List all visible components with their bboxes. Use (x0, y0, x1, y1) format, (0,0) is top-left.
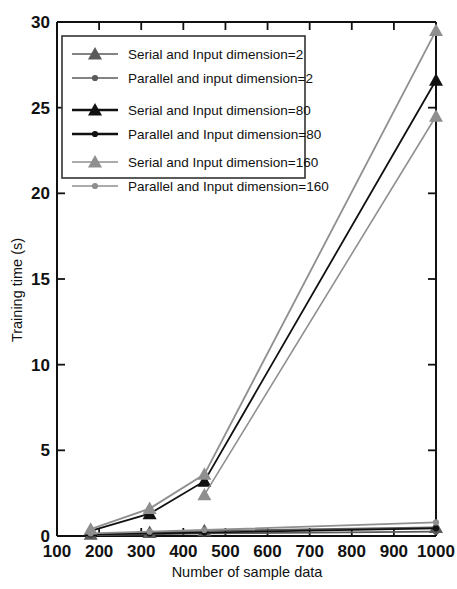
series-marker (201, 527, 207, 533)
series-marker (92, 183, 98, 189)
series-marker (92, 75, 98, 81)
chart-legend: Serial and Input dimension=2Parallel and… (62, 36, 329, 194)
series-marker (88, 530, 94, 536)
y-axis-title: Training time (s) (9, 238, 25, 342)
x-tick-label: 400 (169, 542, 197, 561)
y-tick-label: 15 (31, 270, 50, 289)
x-axis-title: Number of sample data (172, 564, 324, 580)
legend-label: Parallel and Input dimension=160 (128, 179, 329, 194)
series-marker (433, 519, 439, 525)
chart-svg: 1002003004005006007008009001000051015202… (0, 0, 457, 589)
legend-label: Parallel and Input dimension=80 (128, 127, 321, 142)
x-tick-label: 500 (211, 542, 239, 561)
y-tick-label: 5 (41, 441, 50, 460)
series-marker (433, 525, 439, 531)
x-tick-label: 600 (253, 542, 281, 561)
legend-label: Serial and Input dimension=80 (128, 103, 311, 118)
y-tick-label: 20 (31, 184, 50, 203)
chart-figure: 1002003004005006007008009001000051015202… (0, 0, 457, 589)
x-tick-label: 700 (295, 542, 323, 561)
y-tick-label: 25 (31, 99, 50, 118)
y-tick-label: 30 (31, 13, 50, 32)
legend-label: Parallel and input dimension=2 (128, 71, 313, 86)
legend-label: Serial and Input dimension=2 (128, 47, 303, 62)
x-tick-label: 300 (127, 542, 155, 561)
x-tick-label: 200 (85, 542, 113, 561)
x-tick-label: 900 (380, 542, 408, 561)
y-tick-label: 10 (31, 356, 50, 375)
series-marker (92, 131, 98, 137)
y-tick-label: 0 (41, 527, 50, 546)
series-marker (147, 529, 153, 535)
x-tick-label: 800 (338, 542, 366, 561)
x-tick-label: 1000 (417, 542, 455, 561)
legend-label: Serial and Input dimension=160 (128, 155, 318, 170)
